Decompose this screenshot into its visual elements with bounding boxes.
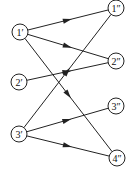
node-3pp: 3″ [108, 98, 124, 114]
edge-3p-to-3pp [27, 108, 109, 132]
arrowhead-icon [63, 19, 72, 24]
node-label: 4″ [112, 153, 121, 164]
node-label: 3′ [15, 129, 22, 140]
arrowhead-icon [62, 119, 71, 124]
node-label: 3″ [111, 101, 120, 112]
node-3p: 3′ [11, 126, 27, 142]
node-label: 2″ [111, 56, 120, 67]
arrowhead-icon [62, 43, 71, 48]
arrowhead-icon [63, 142, 72, 147]
node-2p: 2′ [11, 74, 27, 90]
edge-3p-to-1pp [24, 14, 111, 127]
node-label: 2′ [15, 77, 22, 88]
node-1p: 1′ [12, 24, 28, 40]
node-1pp: 1″ [108, 0, 124, 16]
edge-1p-to-4pp [25, 38, 112, 151]
bipartite-graph-diagram: 1′2′3′1″2″3″4″ [0, 0, 135, 169]
edge-1p-to-1pp [28, 10, 108, 30]
node-label: 1′ [16, 27, 23, 38]
nodes-group: 1′2′3′1″2″3″4″ [11, 0, 125, 166]
edge-3p-to-4pp [27, 136, 109, 156]
node-2pp: 2″ [108, 53, 124, 69]
node-4pp: 4″ [109, 150, 125, 166]
arrowhead-icon [63, 89, 71, 98]
edge-1p-to-2pp [28, 34, 109, 58]
node-label: 1″ [111, 3, 120, 14]
edges-group [24, 10, 112, 156]
